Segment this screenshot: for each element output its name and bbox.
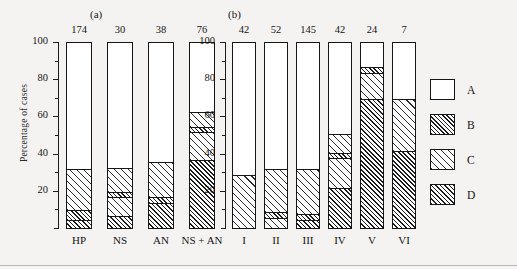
bar-segment-c bbox=[149, 162, 173, 197]
legend-label: C bbox=[467, 154, 475, 166]
bar-count-label: 7 bbox=[380, 24, 428, 35]
bar-segment-d bbox=[361, 99, 383, 229]
segment-divider bbox=[297, 214, 319, 215]
panel-a-title: (a) bbox=[90, 8, 102, 20]
y-axis-line-a bbox=[58, 42, 59, 229]
y-tick-major bbox=[220, 79, 225, 80]
bar-segment-a bbox=[67, 43, 91, 169]
y-tick-major bbox=[220, 42, 225, 43]
y-tick-major bbox=[53, 42, 58, 43]
figure-canvas: Percentage of cases (a) (b) ABCD 2040608… bbox=[0, 0, 517, 269]
segment-divider bbox=[297, 169, 319, 170]
bar-segment-d bbox=[149, 203, 173, 229]
y-tick-major bbox=[220, 154, 225, 155]
bar-segment-d bbox=[393, 151, 415, 229]
y-tick-label: 20 bbox=[18, 184, 48, 195]
segment-divider bbox=[265, 169, 287, 170]
segment-divider bbox=[329, 153, 351, 154]
stacked-bar[interactable] bbox=[148, 42, 174, 229]
segment-divider bbox=[108, 216, 132, 217]
y-tick-label: 80 bbox=[185, 72, 215, 83]
bar-segment-c bbox=[108, 168, 132, 192]
bar-segment-c bbox=[67, 169, 91, 210]
bar-segment-c bbox=[265, 169, 287, 212]
bar-segment-a bbox=[361, 43, 383, 67]
legend-label: A bbox=[467, 84, 475, 96]
bar-segment-a bbox=[329, 43, 351, 134]
segment-divider bbox=[149, 203, 173, 204]
segment-divider bbox=[297, 220, 319, 221]
stacked-bar[interactable] bbox=[264, 42, 288, 229]
segment-divider bbox=[67, 210, 91, 211]
segment-divider bbox=[233, 175, 255, 176]
bar-segment-c bbox=[108, 197, 132, 216]
figure-bottom-rule bbox=[0, 265, 517, 266]
legend-label: B bbox=[467, 119, 475, 131]
bar-segment-c bbox=[297, 169, 319, 214]
bar-segment-a bbox=[297, 43, 319, 169]
y-tick-minor bbox=[55, 135, 58, 136]
stacked-bar[interactable] bbox=[189, 42, 215, 229]
y-tick-major bbox=[53, 116, 58, 117]
legend-item-d[interactable]: D bbox=[430, 177, 510, 212]
stacked-bar[interactable] bbox=[232, 42, 256, 229]
y-tick-major bbox=[220, 191, 225, 192]
segment-divider bbox=[190, 160, 214, 161]
bar-segment-d bbox=[67, 220, 91, 229]
legend-item-c[interactable]: C bbox=[430, 142, 510, 177]
y-tick-label: 20 bbox=[185, 184, 215, 195]
segment-divider bbox=[329, 158, 351, 159]
y-tick-minor bbox=[222, 61, 225, 62]
legend-swatch-b bbox=[430, 114, 455, 135]
stacked-bar[interactable] bbox=[107, 42, 133, 229]
legend-item-b[interactable]: B bbox=[430, 107, 510, 142]
y-tick-major bbox=[220, 116, 225, 117]
segment-divider bbox=[108, 168, 132, 169]
legend-swatch-d bbox=[430, 184, 455, 205]
y-tick-minor bbox=[222, 209, 225, 210]
x-axis-baseline-a bbox=[54, 228, 59, 229]
y-tick-label: 40 bbox=[185, 147, 215, 158]
bar-segment-a bbox=[108, 43, 132, 168]
y-tick-label: 40 bbox=[18, 147, 48, 158]
x-category-label: VI bbox=[376, 234, 432, 246]
legend-item-a[interactable]: A bbox=[430, 72, 510, 107]
segment-divider bbox=[149, 162, 173, 163]
segment-divider bbox=[190, 132, 214, 133]
y-tick-major bbox=[53, 79, 58, 80]
y-tick-major bbox=[53, 191, 58, 192]
segment-divider bbox=[393, 151, 415, 152]
y-tick-minor bbox=[55, 172, 58, 173]
bar-segment-a bbox=[393, 43, 415, 99]
y-tick-minor bbox=[222, 98, 225, 99]
legend-label: D bbox=[467, 189, 475, 201]
segment-divider bbox=[265, 218, 287, 219]
bar-segment-b bbox=[67, 210, 91, 219]
bar-segment-a bbox=[265, 43, 287, 169]
segment-divider bbox=[108, 197, 132, 198]
panel-b-title: (b) bbox=[228, 8, 241, 20]
y-tick-minor bbox=[222, 135, 225, 136]
y-tick-label: 60 bbox=[18, 109, 48, 120]
y-tick-minor bbox=[55, 61, 58, 62]
y-tick-minor bbox=[55, 209, 58, 210]
y-axis-line-b bbox=[225, 42, 226, 229]
y-tick-label: 60 bbox=[185, 109, 215, 120]
segment-divider bbox=[329, 188, 351, 189]
bar-segment-c bbox=[329, 134, 351, 153]
y-tick-major bbox=[53, 154, 58, 155]
bar-segment-d bbox=[297, 220, 319, 229]
y-tick-label: 100 bbox=[185, 35, 215, 46]
stacked-bar[interactable] bbox=[328, 42, 352, 229]
bar-segment-d bbox=[329, 188, 351, 229]
stacked-bar[interactable] bbox=[66, 42, 92, 229]
segment-divider bbox=[329, 134, 351, 135]
bar-segment-c bbox=[233, 175, 255, 229]
stacked-bar[interactable] bbox=[296, 42, 320, 229]
segment-divider bbox=[393, 99, 415, 100]
stacked-bar[interactable] bbox=[360, 42, 384, 229]
bar-segment-c bbox=[361, 73, 383, 99]
stacked-bar[interactable] bbox=[392, 42, 416, 229]
segment-divider bbox=[361, 99, 383, 100]
y-tick-label: 80 bbox=[18, 72, 48, 83]
